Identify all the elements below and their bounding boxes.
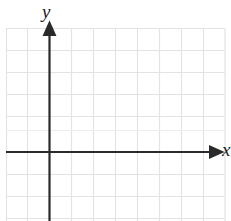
grid-lines-vertical (7, 28, 226, 221)
coordinate-grid-figure: y x (0, 0, 231, 221)
y-axis-label: y (42, 2, 50, 21)
coordinate-plane-svg (0, 0, 231, 221)
x-axis-label: x (222, 140, 230, 159)
